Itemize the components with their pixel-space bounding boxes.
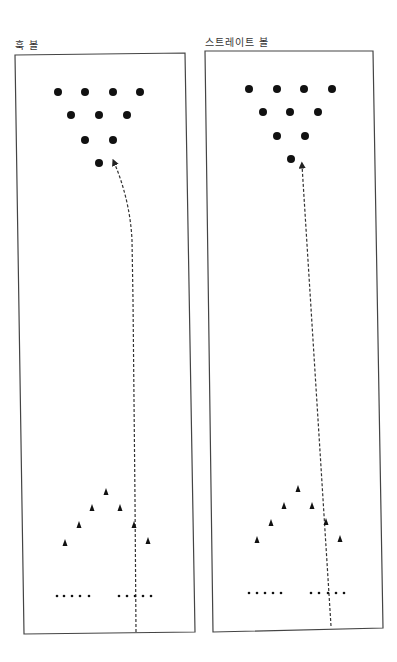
lane-dot-marker (71, 595, 74, 598)
pin-icon (109, 136, 117, 144)
lane-dot-marker (63, 595, 66, 598)
lane-dot-marker (310, 592, 313, 595)
pin-icon (259, 108, 267, 116)
lane-dot-marker (256, 592, 259, 595)
pin-icon (328, 85, 336, 93)
pin-icon (314, 108, 322, 116)
pin-icon (286, 108, 294, 116)
lane-dot-marker (150, 595, 153, 598)
pin-icon (54, 88, 62, 96)
lane-border (205, 51, 383, 632)
hook-ball-path (114, 162, 136, 632)
pin-icon (95, 111, 103, 119)
pin-icon (273, 132, 281, 140)
lane-arrow-icon (296, 485, 301, 492)
lane-arrow-icon (282, 502, 287, 509)
pin-icon (81, 136, 89, 144)
pin-icon (123, 111, 131, 119)
lane-dot-marker (118, 595, 121, 598)
lane-dot-marker (248, 592, 251, 595)
lane-dot-marker (126, 595, 129, 598)
pin-icon (136, 88, 144, 96)
lane-arrow-icon (104, 488, 109, 495)
lane-dot-marker (343, 592, 346, 595)
lane-dot-marker (318, 592, 321, 595)
pin-icon (287, 155, 295, 163)
pin-icon (300, 85, 308, 93)
lane-arrow-icon (338, 535, 343, 542)
lane-dot-marker (280, 592, 283, 595)
hook-ball-lane (15, 53, 195, 634)
lane-dot-marker (56, 595, 59, 598)
lane-arrow-icon (90, 504, 95, 511)
straight-ball-lane (205, 51, 383, 632)
lane-arrow-icon (310, 502, 315, 509)
straight-ball-path (302, 165, 331, 626)
bowling-diagram (0, 0, 397, 662)
pin-icon (95, 159, 103, 167)
lane-dot-marker (327, 592, 330, 595)
lane-arrow-icon (77, 521, 82, 528)
lane-arrow-icon (146, 537, 151, 544)
lane-arrow-icon (269, 519, 274, 526)
pin-icon (67, 111, 75, 119)
lane-arrow-icon (118, 504, 123, 511)
pin-icon (245, 85, 253, 93)
pin-icon (273, 85, 281, 93)
pin-icon (301, 132, 309, 140)
pin-icon (109, 88, 117, 96)
lane-arrow-icon (255, 536, 260, 543)
lane-dot-marker (335, 592, 338, 595)
lane-dot-marker (79, 595, 82, 598)
lane-arrow-icon (63, 539, 68, 546)
lane-dot-marker (134, 595, 137, 598)
lane-border (15, 53, 195, 634)
lane-dot-marker (142, 595, 145, 598)
lane-dot-marker (264, 592, 267, 595)
lane-dot-marker (272, 592, 275, 595)
pin-icon (81, 88, 89, 96)
lane-dot-marker (88, 595, 91, 598)
